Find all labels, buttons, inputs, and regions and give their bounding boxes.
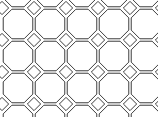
figure-background xyxy=(0,0,158,117)
tessellation-canvas xyxy=(0,0,158,117)
tessellation-figure xyxy=(0,0,158,117)
